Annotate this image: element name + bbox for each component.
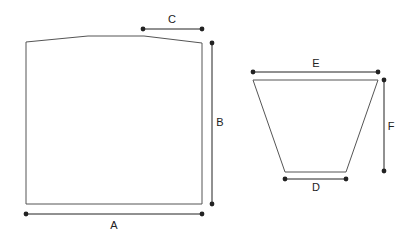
endpoint-dot: [344, 177, 349, 182]
endpoint-dot: [210, 202, 215, 207]
endpoint-dot: [141, 27, 146, 32]
diagram-canvas: ABCDEF: [0, 0, 409, 236]
dimension-label: B: [216, 116, 223, 128]
dimension-f: F: [382, 78, 395, 174]
dimension-lines: ABCDEF: [24, 13, 395, 231]
dimension-label: F: [388, 120, 395, 132]
trapezoid-shape: [253, 80, 378, 172]
endpoint-dot: [200, 212, 205, 217]
dimension-label: C: [168, 13, 176, 25]
endpoint-dot: [382, 169, 387, 174]
dimension-c: C: [141, 13, 205, 31]
dimension-label: D: [312, 181, 320, 193]
endpoint-dot: [283, 177, 288, 182]
dimension-label: E: [312, 57, 319, 69]
dimension-d: D: [283, 177, 349, 193]
dimension-label: A: [110, 219, 118, 231]
panel-shape: [26, 36, 202, 204]
endpoint-dot: [382, 78, 387, 83]
endpoint-dot: [210, 41, 215, 46]
endpoint-dot: [376, 70, 381, 75]
endpoint-dot: [200, 27, 205, 32]
dimension-b: B: [210, 41, 224, 207]
dimension-e: E: [251, 57, 381, 74]
endpoint-dot: [251, 70, 256, 75]
dimension-a: A: [24, 212, 205, 231]
endpoint-dot: [24, 212, 29, 217]
